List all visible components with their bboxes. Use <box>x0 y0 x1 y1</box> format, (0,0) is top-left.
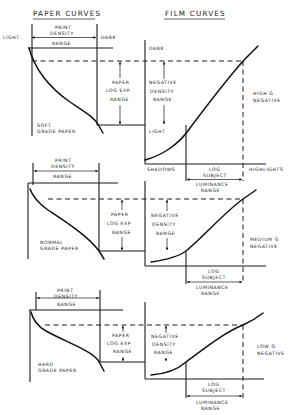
paper-grade-label-1: NORMAL <box>40 240 64 245</box>
log-subject-label-4: RANGE <box>201 406 220 411</box>
negative-density-label-1: NEGATIVE <box>151 213 179 218</box>
negative-density-label-3: RANGE <box>154 350 173 355</box>
negative-density-label-2: DENSITY <box>152 222 176 227</box>
print-density-label-1: PRINT <box>55 158 72 163</box>
print-density-label-3: RANGE <box>52 41 71 46</box>
paper-grade-label-2: GRADE PAPER <box>40 246 79 251</box>
film-light-label: LIGHT <box>149 129 166 134</box>
film-negative-label-2: NEGATIVE <box>253 98 281 103</box>
film-dark-label: DARK <box>149 46 165 51</box>
negative-density-label-3: RANGE <box>153 97 172 102</box>
paper-grade-label-1: SOFT <box>37 123 51 128</box>
log-subject-label-1: LOG <box>209 167 220 172</box>
section-titles: PAPER CURVES FILM CURVES <box>33 9 226 19</box>
log-subject-label-2: SUBJECT <box>202 388 226 393</box>
panel-hard-low-g: PRINT DENSITY RANGE PAPER LOG EXP RANGE … <box>29 288 285 411</box>
print-density-label-2: DENSITY <box>51 164 75 169</box>
log-subject-label-3: LUMINANCE <box>196 400 229 405</box>
print-density-label-3: RANGE <box>57 302 76 307</box>
print-density-label-3: RANGE <box>53 174 72 179</box>
paper-log-exp-label-3: RANGE <box>112 230 131 235</box>
log-subject-label-3: LUMINANCE <box>196 182 229 187</box>
paper-grade-label-2: GRADE PAPER <box>38 368 77 373</box>
film-negative-label-1: HIGH Ġ <box>253 90 273 96</box>
paper-grade-label-1: HARD <box>38 362 54 367</box>
paper-film-curves-diagram: PAPER CURVES FILM CURVES LIGHT DARK PRIN… <box>0 0 298 415</box>
film-negative-label-2: NEGATIVE <box>250 244 278 249</box>
panel-soft-high-g: LIGHT DARK PRINT DENSITY RANGE PAPER LOG… <box>3 24 283 193</box>
paper-curves-title: PAPER CURVES <box>33 9 101 18</box>
log-subject-label-2: SUBJECT <box>202 275 226 280</box>
dark-label: DARK <box>101 35 117 40</box>
print-density-label-1: PRINT <box>55 25 72 30</box>
shadows-label: SHADOWS <box>147 167 175 172</box>
film-negative-label-1: MEDIUM Ġ <box>250 236 279 242</box>
negative-density-label-1: NEGATIVE <box>151 334 179 339</box>
paper-log-exp-label-1: PAPER <box>112 80 130 85</box>
paper-log-exp-label-2: LOG EXP <box>107 341 131 346</box>
paper-log-exp-label-2: LOG EXP <box>107 221 131 226</box>
log-subject-label-4: RANGE <box>201 188 220 193</box>
paper-log-exp-label-1: PAPER <box>111 212 129 217</box>
print-density-label-1: PRINT <box>57 288 74 293</box>
paper-log-exp-label-2: LOG EXP <box>106 88 130 93</box>
panel-normal-medium-g: PRINT DENSITY RANGE PAPER LOG EXP RANGE … <box>28 158 279 296</box>
print-density-label-2: DENSITY <box>50 31 74 36</box>
log-subject-label-3: LUMINANCE <box>196 285 229 290</box>
log-subject-label-1: LOG <box>208 382 219 387</box>
log-subject-label-1: LOG <box>208 269 219 274</box>
paper-log-exp-label-3: RANGE <box>113 349 132 354</box>
paper-grade-label-2: GRADE PAPER <box>37 129 76 134</box>
negative-density-label-2: DENSITY <box>152 342 176 347</box>
light-label: LIGHT <box>3 35 20 40</box>
film-negative-label-1: LOW Ġ <box>257 343 276 349</box>
highlights-label: HIGHLIGHTS <box>249 167 283 172</box>
log-subject-label-4: RANGE <box>201 291 220 296</box>
negative-density-label-2: DENSITY <box>150 89 174 94</box>
film-curves-title: FILM CURVES <box>165 9 226 18</box>
log-subject-label-2: SUBJECT <box>203 173 227 178</box>
negative-density-label-1: NEGATIVE <box>149 80 177 85</box>
paper-log-exp-label-3: RANGE <box>110 97 129 102</box>
paper-log-exp-label-1: PAPER <box>112 333 130 338</box>
negative-density-label-3: RANGE <box>156 231 175 236</box>
film-negative-label-2: NEGATIVE <box>257 351 285 356</box>
